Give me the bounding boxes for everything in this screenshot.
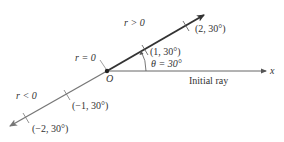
point-label-2: (2, 30°) [195, 23, 226, 35]
point-label-neg-1: (−1, 30°) [72, 100, 108, 112]
r-zero-label: r = 0 [75, 52, 96, 63]
point-label-1: (1, 30°) [150, 46, 181, 58]
point-label-neg-2: (−2, 30°) [32, 123, 68, 135]
theta-label: θ = 30° [151, 58, 182, 69]
r-positive-label: r > 0 [124, 17, 145, 28]
polar-diagram: r > 0 r = 0 r < 0 O θ = 30° Initial ray … [0, 0, 284, 142]
diagram-canvas: r > 0 r = 0 r < 0 O θ = 30° Initial ray … [0, 0, 284, 142]
r-negative-label: r < 0 [16, 90, 37, 101]
x-axis-label: x [269, 65, 275, 76]
origin-label: O [106, 73, 113, 84]
r-zero-leader [100, 60, 106, 69]
initial-ray-label: Initial ray [189, 75, 228, 86]
